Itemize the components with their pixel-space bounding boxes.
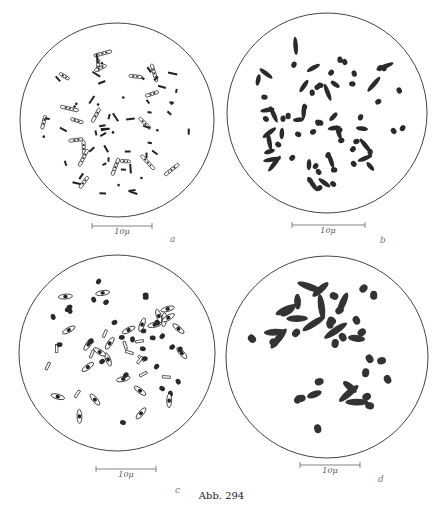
microscopy-figure <box>0 0 443 510</box>
panel-c-field <box>19 255 215 472</box>
scale-label-a: 10μ <box>114 227 129 236</box>
panel-b-field <box>227 13 427 228</box>
panel-d-field <box>226 256 428 468</box>
figure-caption: Abb. 294 <box>0 490 443 501</box>
panel-label-d: d <box>378 474 384 484</box>
panel-a-field <box>20 23 214 229</box>
panel-label-b: b <box>380 235 386 245</box>
scale-label-d: 10μ <box>322 466 337 475</box>
scale-label-c: 10μ <box>118 470 133 479</box>
scale-label-b: 10μ <box>320 226 335 235</box>
panel-label-a: a <box>170 234 175 244</box>
